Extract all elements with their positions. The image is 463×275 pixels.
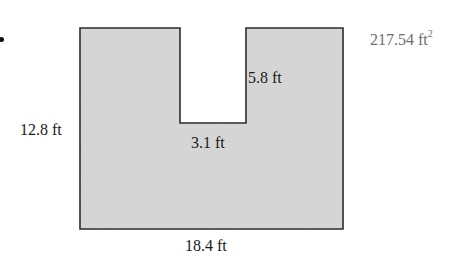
notch-depth-label: 5.8 ft — [248, 69, 282, 87]
height-label: 12.8 ft — [20, 121, 62, 139]
area-answer: 217.54 ft2 — [370, 27, 433, 49]
area-exponent: 2 — [428, 28, 433, 39]
notch-width-label: 3.1 ft — [191, 134, 225, 152]
area-value: 217.54 ft — [370, 31, 428, 48]
width-label: 18.4 ft — [185, 237, 227, 255]
